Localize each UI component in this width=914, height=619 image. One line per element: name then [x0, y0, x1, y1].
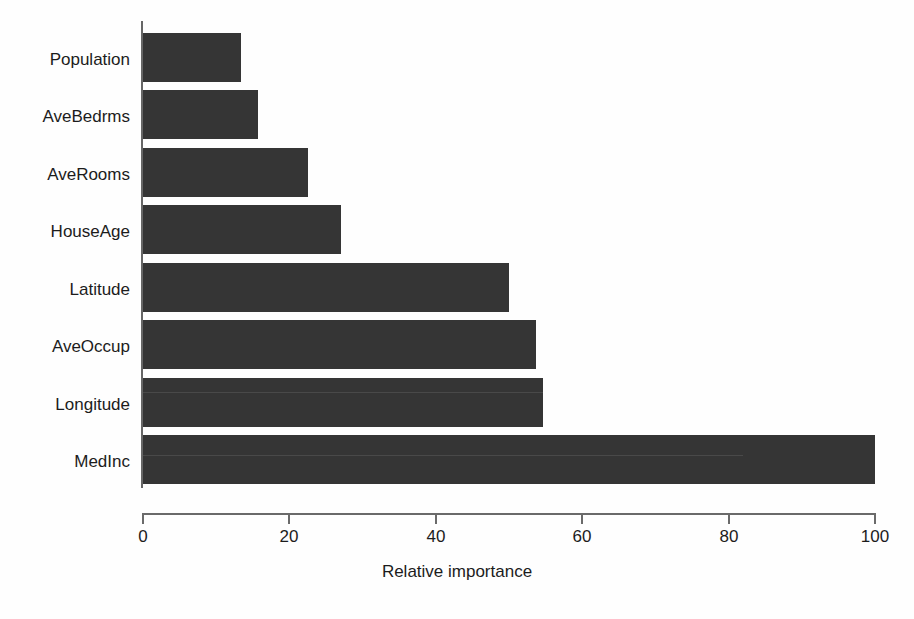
- y-axis-label-longitude: Longitude: [0, 396, 130, 413]
- bar-aveoccup: [143, 320, 536, 369]
- x-tick-100: [874, 513, 876, 524]
- x-tick-label-80: 80: [720, 528, 739, 545]
- x-tick-label-0: 0: [138, 528, 147, 545]
- x-tick-label-100: 100: [861, 528, 889, 545]
- x-tick-20: [288, 513, 290, 524]
- plot-area: Population AveBedrms AveRooms HouseAge L…: [0, 0, 914, 500]
- bar-fill: [143, 263, 509, 312]
- x-tick-label-40: 40: [427, 528, 446, 545]
- x-tick-80: [728, 513, 730, 524]
- x-tick-60: [581, 513, 583, 524]
- y-axis-label-avebedrms: AveBedrms: [0, 108, 130, 125]
- bar-medinc: [143, 435, 875, 484]
- bar-fill: [143, 90, 258, 139]
- bar-latitude: [143, 263, 509, 312]
- bar-population: [143, 33, 241, 82]
- y-axis-label-houseage: HouseAge: [0, 223, 130, 240]
- y-axis-label-medinc: MedInc: [0, 453, 130, 470]
- y-axis-label-latitude: Latitude: [0, 281, 130, 298]
- y-axis-label-averooms: AveRooms: [0, 166, 130, 183]
- bar-avebedrms: [143, 90, 258, 139]
- bar-chart-figure: Population AveBedrms AveRooms HouseAge L…: [0, 0, 914, 619]
- x-axis-line: [142, 513, 875, 515]
- bar-houseage: [143, 205, 341, 254]
- bar-fill: [143, 378, 543, 427]
- bar-fill: [143, 205, 341, 254]
- bar-fill: [143, 320, 536, 369]
- x-tick-label-20: 20: [280, 528, 299, 545]
- y-axis-label-population: Population: [0, 51, 130, 68]
- x-tick-40: [435, 513, 437, 524]
- bar-longitude: [143, 378, 543, 427]
- bar-fill: [143, 148, 308, 197]
- bar-fill: [143, 435, 875, 484]
- x-tick-0: [142, 513, 144, 524]
- x-tick-label-60: 60: [573, 528, 592, 545]
- x-axis-title: Relative importance: [0, 562, 914, 582]
- bar-averooms: [143, 148, 308, 197]
- x-axis: 0 20 40 60 80 100 Relative importance: [0, 500, 914, 619]
- bar-fill: [143, 33, 241, 82]
- y-axis-label-aveoccup: AveOccup: [0, 338, 130, 355]
